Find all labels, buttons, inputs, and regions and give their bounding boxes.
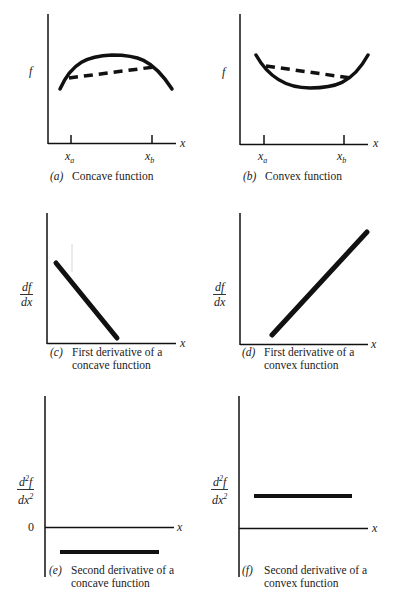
panel-b-y-label: f xyxy=(222,65,225,80)
panel-e-caption-line1: Second derivative of a xyxy=(71,564,174,576)
num-f: f xyxy=(29,475,32,489)
panel-d-graphics xyxy=(240,213,368,345)
panel-d-increasing-line xyxy=(272,232,367,335)
panel-a-xb-label: xb xyxy=(145,149,154,165)
panel-e-zero-label: 0 xyxy=(28,520,34,535)
panel-f-tag: (f) xyxy=(242,564,264,577)
panel-f-graphics xyxy=(239,396,368,577)
panel-d-y-den: dx xyxy=(213,295,226,309)
panel-f-y-num: d2f xyxy=(211,472,228,490)
panel-a-x-label: x xyxy=(180,136,185,151)
panel-a-graphics xyxy=(48,14,176,144)
panel-c-y-label: df dx xyxy=(20,280,33,309)
panel-c-y-den: dx xyxy=(20,295,33,309)
panel-f-caption: (f)Second derivative of a convex functio… xyxy=(242,564,367,590)
num-f: f xyxy=(223,475,226,489)
panel-c-caption: (c)First derivative of a concave functio… xyxy=(50,346,162,372)
panel-f-y-label: d2f dx2 xyxy=(211,472,228,507)
panel-a-tag: (a) xyxy=(50,170,72,183)
xb-sub: b xyxy=(150,156,154,165)
panel-b-tag: (b) xyxy=(243,170,265,183)
panel-d-y-num: df xyxy=(213,280,226,295)
xa-sub: a xyxy=(70,156,74,165)
panel-f-y-den: dx2 xyxy=(211,490,228,507)
panel-d-x-label: x xyxy=(371,337,376,352)
panel-c-x-label: x xyxy=(180,336,185,351)
panel-b-chord-dashed xyxy=(266,66,351,78)
panel-a-caption: (a)Concave function xyxy=(50,170,153,183)
panel-f-caption-line1: Second derivative of a xyxy=(264,564,367,576)
panel-d-caption-line1: First derivative of a xyxy=(264,346,354,358)
panel-e-y-label: d2f dx2 xyxy=(17,472,34,507)
panel-d-caption-line2: convex function xyxy=(264,359,338,371)
panel-b-xa-label: xa xyxy=(258,149,267,165)
den-sup: 2 xyxy=(29,492,33,501)
panel-e-x-label: x xyxy=(177,520,182,535)
xb-sub: b xyxy=(342,156,346,165)
panel-a-y-label: f xyxy=(29,64,32,79)
panel-a-xa-label: xa xyxy=(65,149,74,165)
den-sup: 2 xyxy=(223,492,227,501)
panel-f-caption-line2: convex function xyxy=(264,577,338,589)
panel-c-decreasing-line xyxy=(56,263,117,338)
panel-d-tag: (d) xyxy=(242,346,264,359)
panel-a-chord-dashed xyxy=(69,67,154,78)
panel-c-caption-line2: concave function xyxy=(72,359,151,371)
xa-sub: a xyxy=(263,156,267,165)
panel-e-y-den: dx2 xyxy=(17,490,34,507)
panel-c-y-num: df xyxy=(20,280,33,295)
panel-f-x-label: x xyxy=(372,521,377,536)
panel-d-caption: (d)First derivative of a convex function xyxy=(242,346,354,372)
panel-b-graphics xyxy=(240,14,368,145)
panel-e-caption-line2: concave function xyxy=(71,577,150,589)
panel-e-tag: (e) xyxy=(49,564,71,577)
den-dx: dx xyxy=(212,493,223,507)
panel-b-x-label: x xyxy=(373,136,378,151)
panel-e-graphics xyxy=(45,396,174,577)
figure-canvas xyxy=(0,0,397,599)
panel-e-caption: (e)Second derivative of a concave functi… xyxy=(49,564,174,590)
panel-c-caption-line1: First derivative of a xyxy=(72,346,162,358)
den-dx: dx xyxy=(18,493,29,507)
panel-d-y-label: df dx xyxy=(213,280,226,309)
panel-c-tag: (c) xyxy=(50,346,72,359)
panel-a-caption-text: Concave function xyxy=(72,170,153,182)
panel-b-caption-text: Convex function xyxy=(265,170,342,182)
panel-b-caption: (b)Convex function xyxy=(243,170,342,183)
panel-b-xb-label: xb xyxy=(337,149,346,165)
panel-e-y-num: d2f xyxy=(17,472,34,490)
panel-c-graphics xyxy=(47,213,176,344)
